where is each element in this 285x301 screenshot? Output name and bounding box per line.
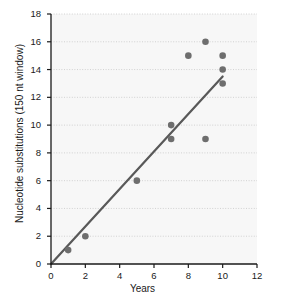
x-tick-label: 8 [178, 271, 198, 281]
scatter-chart: 024681012141618024681012 Years Nucleotid… [0, 0, 285, 301]
x-tick-label: 6 [144, 271, 164, 281]
y-tick-label: 0 [15, 259, 41, 269]
x-tick-label: 4 [110, 271, 130, 281]
axis-layer [0, 0, 285, 301]
x-axis-title: Years [0, 283, 285, 294]
y-axis-title: Nucleotide substitutions (150 nt window) [14, 14, 25, 254]
x-tick-label: 12 [247, 271, 267, 281]
x-tick-label: 10 [213, 271, 233, 281]
x-tick-label: 0 [41, 271, 61, 281]
x-tick-label: 2 [75, 271, 95, 281]
